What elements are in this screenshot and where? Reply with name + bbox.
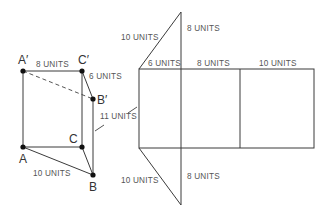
- label-b: B: [89, 180, 97, 194]
- vertex-c-prime: [79, 68, 84, 73]
- dim-top-hypotenuse: 10 UNITS: [121, 33, 159, 42]
- vertex-a: [20, 144, 25, 149]
- height-leader-lower: [95, 125, 104, 131]
- dim-rect-width-2: 10 UNITS: [259, 59, 297, 68]
- dim-bottom-hypotenuse: 10 UNITS: [121, 176, 159, 185]
- dim-rect-width-1: 8 UNITS: [197, 59, 230, 68]
- label-b-prime: B′: [97, 93, 108, 107]
- label-c-prime: C′: [78, 53, 90, 67]
- dim-top-base: 6 UNITS: [148, 59, 181, 68]
- vertex-a-prime: [20, 68, 25, 73]
- label-a: A: [19, 152, 27, 166]
- net-rectangles-outline: [139, 69, 314, 148]
- prism-and-net-diagram: A′ C′ B′ A C B 8 UNITS 6 UNITS 10 UNITS …: [0, 0, 330, 217]
- label-a-prime: A′: [18, 53, 29, 67]
- vertex-b-prime: [90, 96, 95, 101]
- label-c: C: [69, 132, 78, 146]
- dim-bottom-leg: 8 UNITS: [187, 172, 220, 181]
- dim-a-prime-c-prime: 8 UNITS: [36, 60, 69, 69]
- prism-net: 10 UNITS 8 UNITS 6 UNITS 8 UNITS 10 UNIT…: [121, 12, 314, 205]
- dim-top-leg: 8 UNITS: [187, 24, 220, 33]
- vertex-b: [90, 172, 95, 177]
- dim-c-prime-b-prime: 6 UNITS: [89, 72, 122, 81]
- triangular-prism: A′ C′ B′ A C B 8 UNITS 6 UNITS 10 UNITS …: [18, 53, 137, 194]
- dim-a-b: 10 UNITS: [33, 169, 71, 178]
- dim-height: 11 UNITS: [100, 112, 137, 121]
- vertex-c: [79, 144, 84, 149]
